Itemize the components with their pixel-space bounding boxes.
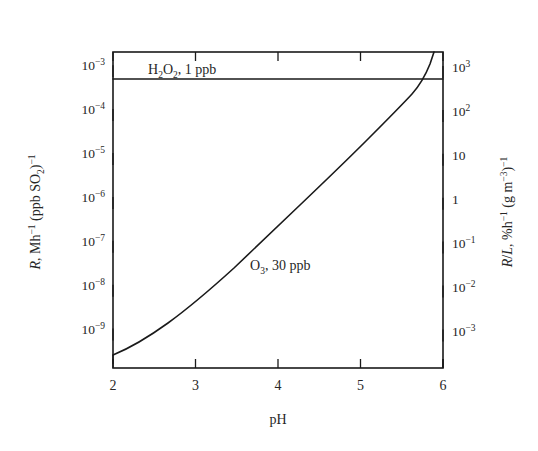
y-tick-label-left: 10−6 [81, 189, 105, 205]
x-axis-ticks-top [113, 52, 443, 61]
y-axis-title-left: R, Mh−1 (ppb SO2)−1 [27, 154, 46, 270]
y-tick-label-right: 10−2 [452, 279, 476, 295]
y-tick-label-left: 10−3 [81, 57, 105, 73]
x-tick-label: 6 [440, 378, 447, 393]
y-tick-label-right: 10 [452, 148, 466, 163]
y-tick-label-right: 1 [452, 192, 459, 207]
y-tick-label-right: 103 [452, 59, 471, 75]
plot-frame [113, 52, 443, 368]
x-tick-label: 3 [192, 378, 199, 393]
x-tick-label: 2 [110, 378, 117, 393]
annotation-o3: O3, 30 ppb [250, 258, 310, 276]
y-tick-labels-right: 103 102 10 1 10−1 10−2 10−3 [452, 59, 476, 339]
x-axis-title: pH [269, 412, 286, 427]
y-tick-label-right: 102 [452, 103, 471, 119]
x-tick-label: 5 [357, 378, 364, 393]
y-tick-labels-left: 10−3 10−4 10−5 10−6 10−7 10−8 10−9 [81, 57, 105, 337]
y-tick-label-left: 10−9 [81, 321, 105, 337]
annotation-h2o2: H2O2, 1 ppb [148, 62, 216, 80]
chart-svg: 2 3 4 5 6 pH 10−3 10−4 10−5 10−6 10−7 10… [0, 0, 538, 451]
y-axis-title-right: R/L, %h−1 (g m−3)−1 [499, 157, 516, 269]
y-tick-label-left: 10−8 [81, 277, 105, 293]
series-curve-o3 [113, 52, 434, 355]
y-tick-label-left: 10−7 [81, 233, 105, 249]
chart-figure: 2 3 4 5 6 pH 10−3 10−4 10−5 10−6 10−7 10… [0, 0, 538, 451]
y-tick-label-right: 10−1 [452, 235, 476, 251]
y-tick-label-left: 10−5 [81, 145, 105, 161]
y-tick-label-right: 10−3 [452, 323, 476, 339]
x-tick-label: 4 [275, 378, 282, 393]
y-tick-label-left: 10−4 [81, 101, 105, 117]
x-tick-labels: 2 3 4 5 6 [110, 378, 447, 393]
x-axis-ticks-bottom [113, 359, 443, 368]
